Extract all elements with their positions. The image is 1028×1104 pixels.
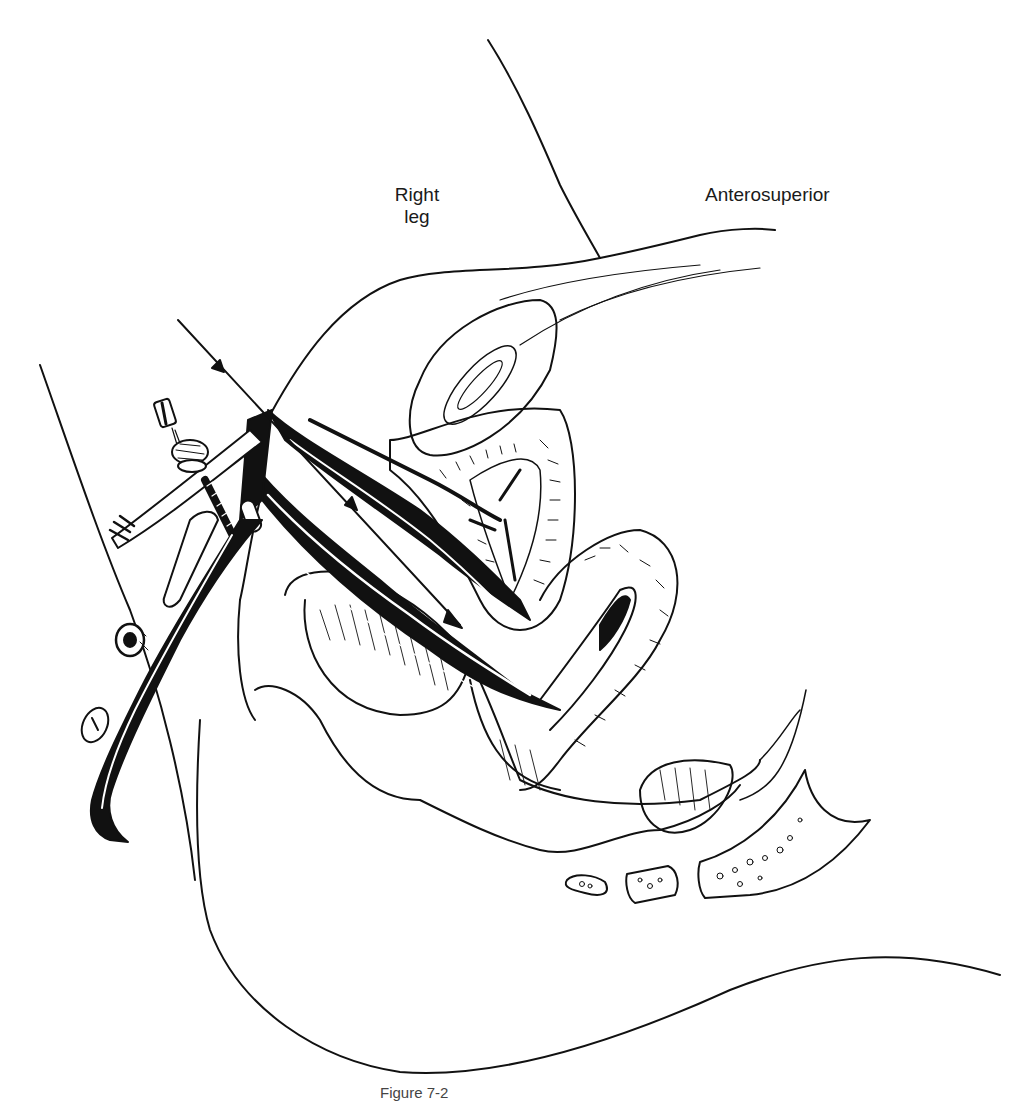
bone-texture [580,818,803,889]
label-right-leg-line2: leg [389,206,445,228]
cervix-hatching [575,545,668,746]
speculum-handle-slot [164,512,218,607]
mons-outline [270,258,600,415]
buttock-outline [197,720,1000,1073]
arrowhead-tip [444,610,462,628]
label-anterosuperior: Anterosuperior [705,184,830,206]
urachus-fibre [560,268,760,320]
right-leg-outline [488,40,600,258]
arrowhead-upper [212,360,224,372]
label-right-leg-line1: Right [389,184,445,206]
sigmoid-colon-lower [255,686,740,852]
sacrum [698,770,870,898]
urachus-fibre [520,270,720,345]
perineal-line [238,600,255,720]
speculum [77,398,560,842]
figure-caption: Figure 7-2 [380,1082,800,1104]
speculum-lower-blade [250,460,560,710]
left-thigh-outline [40,365,195,880]
adjusting-screw [153,398,208,472]
arrowhead-lower [345,497,357,510]
cervix-rectouterine [520,530,677,790]
bladder-lumen-inner [453,356,508,414]
label-right-leg: Right leg [389,184,445,228]
handle-thumb-screw [116,624,148,656]
abdominal-wall-outline [600,229,775,258]
coccyx-segment-1 [566,875,607,895]
colon-hatching [320,605,710,810]
cervix-canal-fill [600,596,630,650]
bladder [410,300,557,456]
